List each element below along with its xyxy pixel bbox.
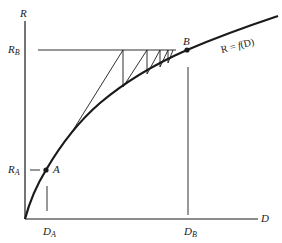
x-axis-label: D xyxy=(261,213,269,224)
db-label: DB xyxy=(184,226,197,239)
ra-label-sub: A xyxy=(15,168,20,177)
y-axis-label: R xyxy=(20,8,27,19)
point-b-label: B xyxy=(183,36,190,47)
db-label-main: D xyxy=(184,225,192,237)
equation-equals: = xyxy=(229,41,237,53)
ra-label: RA xyxy=(8,164,20,177)
zigzag-adjustment-path xyxy=(70,50,173,135)
da-label-main: D xyxy=(43,225,51,237)
equation-lhs: R xyxy=(220,43,229,55)
point-a-marker xyxy=(43,167,48,172)
db-label-sub: B xyxy=(192,230,197,239)
da-label: DA xyxy=(43,226,56,239)
diagram-canvas: R D RB RA DA DB A B R = f(D) xyxy=(0,0,282,243)
point-b-marker xyxy=(184,47,189,52)
ra-label-main: R xyxy=(8,163,15,175)
rb-label-sub: B xyxy=(15,48,20,57)
diagram-graphic xyxy=(0,0,282,243)
rb-label-main: R xyxy=(8,43,15,55)
point-a-label: A xyxy=(53,164,60,175)
rb-label: RB xyxy=(8,44,20,57)
da-label-sub: A xyxy=(51,230,56,239)
